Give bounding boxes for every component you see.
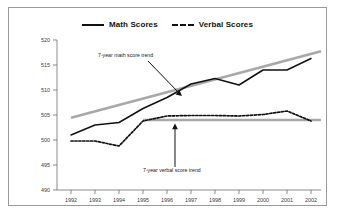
x-tick-label: 1992 [65,197,77,203]
x-tick-label: 1998 [209,197,221,203]
annotation-math-trend-label: 7-year math score trend [98,52,153,58]
y-tick-label: 520 [41,37,50,43]
y-tick-label: 510 [41,87,50,93]
y-tick-label: 500 [41,137,50,143]
y-tick-label: 515 [41,62,50,68]
chart-frame: Math Scores Verbal Scores 520 515 510 50… [8,7,327,206]
plot-area: 520 515 510 505 500 495 490 1992 1993 [9,8,328,207]
x-tick-label: 1995 [137,197,149,203]
series-line-math [71,59,311,136]
chart-svg: 520 515 510 505 500 495 490 1992 1993 [9,8,328,207]
x-tick-label: 1994 [113,197,125,203]
x-tick-label: 1993 [89,197,101,203]
x-tick-label: 2002 [305,197,317,203]
series-line-verbal [71,111,311,146]
y-tick-label: 495 [41,162,50,168]
y-tick-label: 505 [41,112,50,118]
x-tick-label: 2000 [257,197,269,203]
annotation-verbal-trend-arrow [172,124,178,168]
x-tick-label: 2001 [281,197,293,203]
y-axis-ticks: 520 515 510 505 500 495 490 [41,37,57,193]
x-tick-label: 1996 [161,197,173,203]
y-tick-label: 490 [41,187,50,193]
annotation-math-trend-arrow [148,61,182,96]
x-tick-label: 1999 [233,197,245,203]
annotation-verbal-trend-label: 7-year verbal score trend [143,167,201,173]
trendline-math [71,51,321,118]
x-axis-ticks: 1992 1993 1994 1995 1996 1997 1998 1999 … [65,190,317,203]
x-tick-label: 1997 [185,197,197,203]
